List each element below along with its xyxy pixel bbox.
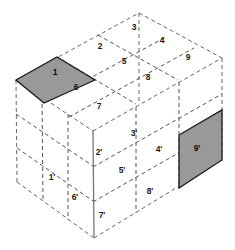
isometric-cube-diagram: 1 2 3 4 5 6 7 8 9 1' 2' 6' 7' 3' 4' 5' 8… (0, 0, 235, 250)
cube-svg-canvas: 1 2 3 4 5 6 7 8 9 1' 2' 6' 7' 3' 4' 5' 8… (0, 0, 235, 250)
